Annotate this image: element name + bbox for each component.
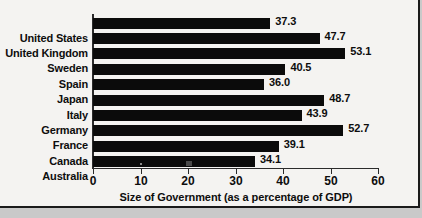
bar: [93, 95, 324, 106]
category-label: Germany: [0, 124, 88, 136]
bar-row: 53.1: [93, 48, 378, 59]
bar: [93, 156, 255, 167]
bar-row: 47.7: [93, 33, 378, 44]
bar-row: 48.7: [93, 95, 378, 106]
bar-value-label: 47.7: [325, 30, 346, 42]
bar: [93, 33, 320, 44]
bar-value-label: 39.1: [284, 138, 305, 150]
bar-value-label: 34.1: [260, 153, 281, 165]
plot-area: United StatesUnited KingdomSwedenSpainJa…: [93, 14, 378, 168]
x-tick-label: 60: [371, 174, 384, 188]
category-label: Canada: [0, 155, 88, 167]
bar-value-label: 36.0: [269, 76, 290, 88]
bar: [93, 141, 279, 152]
category-label: Australia: [0, 170, 88, 182]
bar-row: 36.0: [93, 79, 378, 90]
category-label: France: [0, 139, 88, 151]
x-tick-label: 20: [181, 174, 194, 188]
bar: [93, 18, 270, 29]
bar: [93, 110, 302, 121]
bar: [93, 125, 343, 136]
category-axis-labels: United StatesUnited KingdomSwedenSpainJa…: [0, 28, 88, 182]
x-axis-title: Size of Government (as a percentage of G…: [93, 191, 379, 203]
bar-value-label: 40.5: [290, 61, 311, 73]
bar: [93, 79, 264, 90]
bar-value-label: 52.7: [348, 122, 369, 134]
category-label: Italy: [0, 109, 88, 121]
bar-value-label: 37.3: [275, 15, 296, 27]
bar-row: 39.1: [93, 141, 378, 152]
category-label: United Kingdom: [0, 47, 88, 59]
bar-value-label: 53.1: [350, 45, 371, 57]
bar: [93, 48, 345, 59]
x-tick-label: 10: [134, 174, 147, 188]
category-label: Spain: [0, 78, 88, 90]
x-tick-label: 50: [324, 174, 337, 188]
scan-artifact-small: [140, 163, 142, 165]
bar-value-label: 43.9: [307, 107, 328, 119]
bar-row: 37.3: [93, 18, 378, 29]
bar-row: 40.5: [93, 64, 378, 75]
x-tick-label: 30: [229, 174, 242, 188]
bar: [93, 64, 285, 75]
x-tick-label: 0: [90, 174, 97, 188]
bar-row: 34.1: [93, 156, 378, 167]
category-label: United States: [0, 32, 88, 44]
x-tick-label: 40: [276, 174, 289, 188]
bar-value-label: 48.7: [329, 92, 350, 104]
category-label: Sweden: [0, 62, 88, 74]
chart-figure: United StatesUnited KingdomSwedenSpainJa…: [0, 0, 420, 208]
bar-row: 52.7: [93, 125, 378, 136]
scan-artifact: [186, 161, 192, 166]
bar-row: 43.9: [93, 110, 378, 121]
category-label: Japan: [0, 93, 88, 105]
